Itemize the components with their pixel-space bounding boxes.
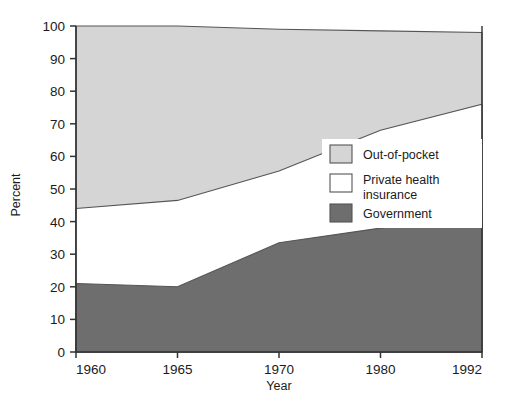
chart-legend: Out-of-pocket Private health insurance G… — [322, 139, 482, 228]
chart-container: 0102030405060708090100 19601965197019801… — [0, 0, 509, 405]
y-tick-label: 40 — [50, 215, 65, 230]
y-tick-label: 0 — [57, 345, 65, 360]
legend-label-out-of-pocket: Out-of-pocket — [363, 148, 439, 162]
x-axis-ticks: 19601965197019801992 — [76, 352, 482, 377]
stacked-area-chart: 0102030405060708090100 19601965197019801… — [0, 0, 509, 405]
legend-swatch-government — [330, 204, 352, 222]
y-axis-title: Percent — [9, 173, 23, 217]
legend-swatch-out-of-pocket — [330, 145, 352, 163]
legend-label-private-health-insurance-line1: Private health — [363, 173, 439, 187]
x-tick-label: 1960 — [76, 362, 106, 377]
y-tick-label: 30 — [50, 247, 65, 262]
y-tick-label: 60 — [50, 149, 65, 164]
legend-label-private-health-insurance-line2: insurance — [363, 188, 417, 202]
y-axis-ticks: 0102030405060708090100 — [42, 19, 76, 360]
y-tick-label: 10 — [50, 312, 65, 327]
y-tick-label: 100 — [42, 19, 65, 34]
x-tick-label: 1980 — [365, 362, 395, 377]
legend-label-government: Government — [363, 207, 432, 221]
y-tick-label: 20 — [50, 280, 65, 295]
y-tick-label: 70 — [50, 117, 65, 132]
x-tick-label: 1965 — [162, 362, 192, 377]
x-axis-title: Year — [266, 379, 291, 393]
y-tick-label: 90 — [50, 52, 65, 67]
legend-swatch-private-health-insurance — [330, 174, 352, 192]
y-tick-label: 50 — [50, 182, 65, 197]
x-tick-label: 1992 — [452, 362, 482, 377]
y-tick-label: 80 — [50, 84, 65, 99]
x-tick-label: 1970 — [264, 362, 294, 377]
